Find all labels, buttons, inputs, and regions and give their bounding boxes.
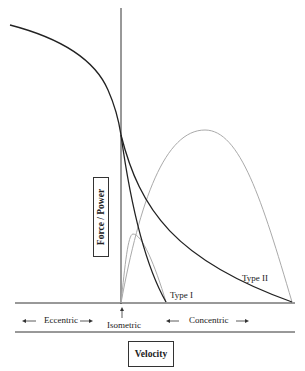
x-axis-label-box: Velocity: [128, 341, 174, 367]
isometric-label: Isometric: [107, 320, 141, 330]
concentric-right-arrowhead-icon: [245, 319, 249, 323]
eccentric-right-arrowhead-icon: [89, 319, 93, 323]
isometric-arrowhead-icon: [120, 307, 124, 311]
type2-label: Type II: [242, 273, 268, 283]
type1-label: Type I: [170, 290, 193, 300]
eccentric-left-arrowhead-icon: [22, 319, 26, 323]
x-axis-label: Velocity: [135, 349, 167, 359]
concentric-label: Concentric: [189, 315, 229, 325]
y-axis-label: Force / Power: [96, 189, 106, 245]
eccentric-label: Eccentric: [44, 315, 78, 325]
y-axis-label-box: Force / Power: [93, 177, 109, 257]
concentric-left-arrowhead-icon: [166, 319, 170, 323]
eccentric-force-curve: [10, 25, 121, 135]
